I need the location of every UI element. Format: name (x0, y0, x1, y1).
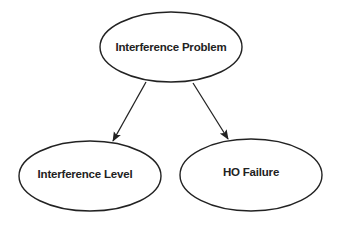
edge-interference-problem-to-interference-level (113, 82, 146, 141)
edge-interference-problem-to-ho-failure (193, 83, 228, 139)
node-interference-problem[interactable]: Interference Problem (100, 12, 242, 82)
node-ho-failure[interactable]: HO Failure (180, 139, 322, 211)
node-interference-problem-label: Interference Problem (115, 41, 226, 53)
node-interference-level[interactable]: Interference Level (19, 141, 161, 211)
node-ho-failure-label: HO Failure (223, 166, 279, 178)
node-interference-level-label: Interference Level (38, 168, 133, 180)
bayesian-network-diagram: Interference Problem Interference Level … (0, 0, 343, 225)
